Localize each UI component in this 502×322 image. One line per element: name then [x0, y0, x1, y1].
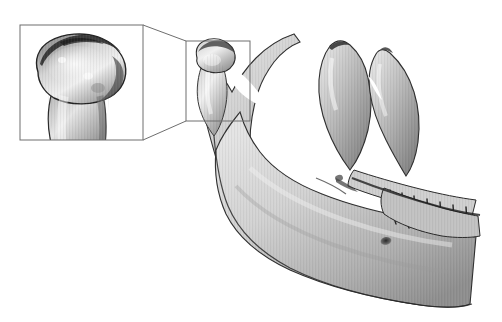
mandible-figure-svg [0, 0, 502, 322]
figure-canvas [0, 0, 502, 322]
